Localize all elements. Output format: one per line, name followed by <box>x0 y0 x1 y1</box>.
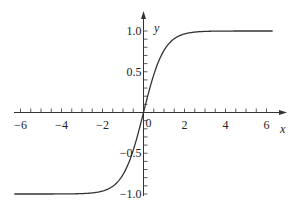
y-tick-label: 0.5 <box>127 65 142 79</box>
y-axis-arrow-icon <box>141 11 146 19</box>
x-tick-label: −6 <box>14 118 27 132</box>
axes <box>14 11 287 196</box>
x-tick-label: −4 <box>55 118 68 132</box>
x-tick-label: −2 <box>96 118 109 132</box>
origin-label: 0 <box>146 116 152 130</box>
x-tick-label: 2 <box>182 118 188 132</box>
tanh-chart: −6−4−22460−1.0−0.50.51.0 x y <box>0 0 300 218</box>
x-axis-arrow-icon <box>279 110 287 115</box>
y-axis-label: y <box>153 21 160 35</box>
x-axis-label: x <box>279 122 286 136</box>
y-tick-label: 1.0 <box>127 24 142 38</box>
y-tick-label: −1.0 <box>120 187 142 201</box>
x-tick-label: 4 <box>223 118 229 132</box>
x-tick-label: 6 <box>264 118 270 132</box>
